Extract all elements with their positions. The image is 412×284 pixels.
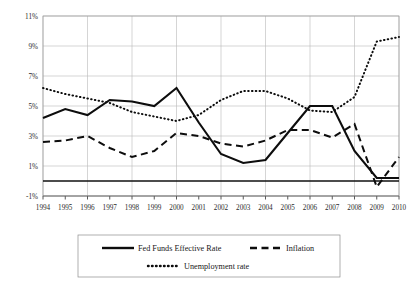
x-axis-tick-label: 2009 bbox=[370, 204, 385, 212]
y-axis-tick-label: 1% bbox=[28, 163, 38, 171]
x-axis-tick-label: 2000 bbox=[169, 204, 184, 212]
x-axis-tick-label: 2005 bbox=[281, 204, 296, 212]
x-axis-tick-label: 1995 bbox=[58, 204, 73, 212]
x-axis-tick-label: 2002 bbox=[214, 204, 229, 212]
line-chart: 11%9%7%5%3%1%-1% 19941995199619971998199… bbox=[0, 0, 412, 284]
y-axis-tick-label: 7% bbox=[28, 73, 38, 81]
legend-label-inflation: Inflation bbox=[286, 244, 314, 253]
x-axis-tick-label: 1996 bbox=[80, 204, 95, 212]
x-axis-tick-label: 1999 bbox=[147, 204, 162, 212]
x-axis-tick-label: 2001 bbox=[192, 204, 207, 212]
x-axis-tick-label: 2006 bbox=[303, 204, 318, 212]
x-axis-tick-label: 2010 bbox=[392, 204, 407, 212]
y-axis-tick-label: -1% bbox=[26, 193, 38, 201]
x-axis-tick-label: 2008 bbox=[347, 204, 362, 212]
x-axis-tick-labels: 1994199519961997199819992000200120022003… bbox=[36, 204, 407, 212]
x-axis-tick-label: 1997 bbox=[103, 204, 118, 212]
legend-label-fed-funds-effective-rate: Fed Funds Effective Rate bbox=[138, 244, 222, 253]
y-axis-tick-label: 9% bbox=[28, 43, 38, 51]
x-axis-tick-label: 1998 bbox=[125, 204, 140, 212]
y-axis-tick-label: 3% bbox=[28, 133, 38, 141]
y-axis-tick-label: 5% bbox=[28, 103, 38, 111]
chart-container: 11%9%7%5%3%1%-1% 19941995199619971998199… bbox=[0, 0, 412, 284]
x-axis-tick-label: 2004 bbox=[258, 204, 273, 212]
chart-legend: Fed Funds Effective Rate Inflation Unemp… bbox=[78, 235, 340, 277]
y-axis-tick-label: 11% bbox=[25, 13, 38, 21]
legend-label-unemployment-rate: Unemployment rate bbox=[184, 262, 250, 271]
x-axis-tick-label: 1994 bbox=[36, 204, 51, 212]
x-axis-tick-label: 2007 bbox=[325, 204, 340, 212]
x-axis-tick-label: 2003 bbox=[236, 204, 251, 212]
